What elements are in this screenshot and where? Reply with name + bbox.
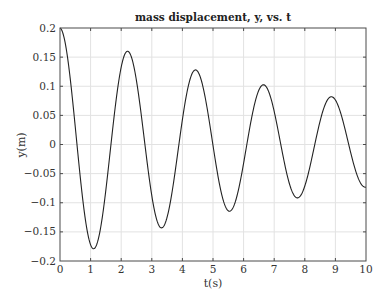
x-tick-label: 3 xyxy=(148,263,155,275)
y-tick-label: 0.05 xyxy=(33,109,56,121)
y-tick-label: 0.1 xyxy=(39,80,56,92)
y-axis-label: y(m) xyxy=(15,132,28,158)
x-tick-label: 10 xyxy=(359,263,372,275)
x-tick-label: 1 xyxy=(87,263,94,275)
x-axis-label: t(s) xyxy=(204,277,223,290)
x-tick-label: 7 xyxy=(271,263,278,275)
x-tick-labels: 012345678910 xyxy=(57,263,373,275)
y-tick-label: 0 xyxy=(49,138,56,150)
x-tick-label: 5 xyxy=(210,263,217,275)
y-tick-label: −0.1 xyxy=(31,196,57,208)
x-tick-label: 4 xyxy=(179,263,186,275)
chart: 012345678910 0.20.150.10.050−0.05−0.1−0.… xyxy=(0,0,385,298)
x-tick-label: 2 xyxy=(118,263,125,275)
x-tick-label: 0 xyxy=(57,263,64,275)
y-tick-labels: 0.20.150.10.050−0.05−0.1−0.15−0.2 xyxy=(24,22,56,267)
x-tick-label: 8 xyxy=(301,263,308,275)
y-tick-label: −0.05 xyxy=(24,167,56,179)
chart-title: mass displacement, y, vs. t xyxy=(135,11,291,23)
y-tick-label: 0.15 xyxy=(33,51,56,63)
y-tick-label: 0.2 xyxy=(39,22,56,34)
x-tick-label: 9 xyxy=(332,263,339,275)
y-tick-label: −0.2 xyxy=(31,255,57,267)
x-tick-label: 6 xyxy=(240,263,247,275)
y-tick-label: −0.15 xyxy=(24,225,56,237)
